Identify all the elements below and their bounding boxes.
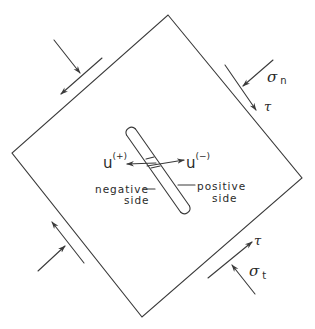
- top-left-loads: [54, 40, 102, 94]
- bottom-right-loads: [208, 242, 255, 294]
- normal-arrow: [38, 246, 65, 271]
- sigma-t-label: σt: [249, 262, 266, 281]
- u-plus-arrow: [127, 163, 156, 164]
- positive-side-label: positive: [197, 180, 246, 192]
- negative-side-label-line2: side: [124, 194, 150, 206]
- diagram-canvas: u(+) u(−) negative side positive side σn…: [0, 0, 315, 329]
- normal-arrow: [54, 40, 80, 73]
- shear-arrow: [61, 58, 102, 94]
- stress-diagram: u(+) u(−) negative side positive side σn…: [0, 0, 315, 329]
- shear-arrow: [208, 242, 252, 278]
- crack-face-mark: [151, 166, 160, 168]
- tau-top-label: τ: [264, 99, 272, 114]
- crack-face-mark: [146, 157, 154, 159]
- shear-arrow: [52, 222, 84, 263]
- positive-side-label-line2: side: [212, 192, 238, 204]
- bottom-left-loads: [38, 222, 84, 271]
- sigma-n-label: σn: [267, 68, 287, 86]
- tau-bottom-label: τ: [254, 233, 262, 248]
- u-minus-label: u(−): [186, 151, 210, 172]
- u-plus-label: u(+): [103, 151, 127, 172]
